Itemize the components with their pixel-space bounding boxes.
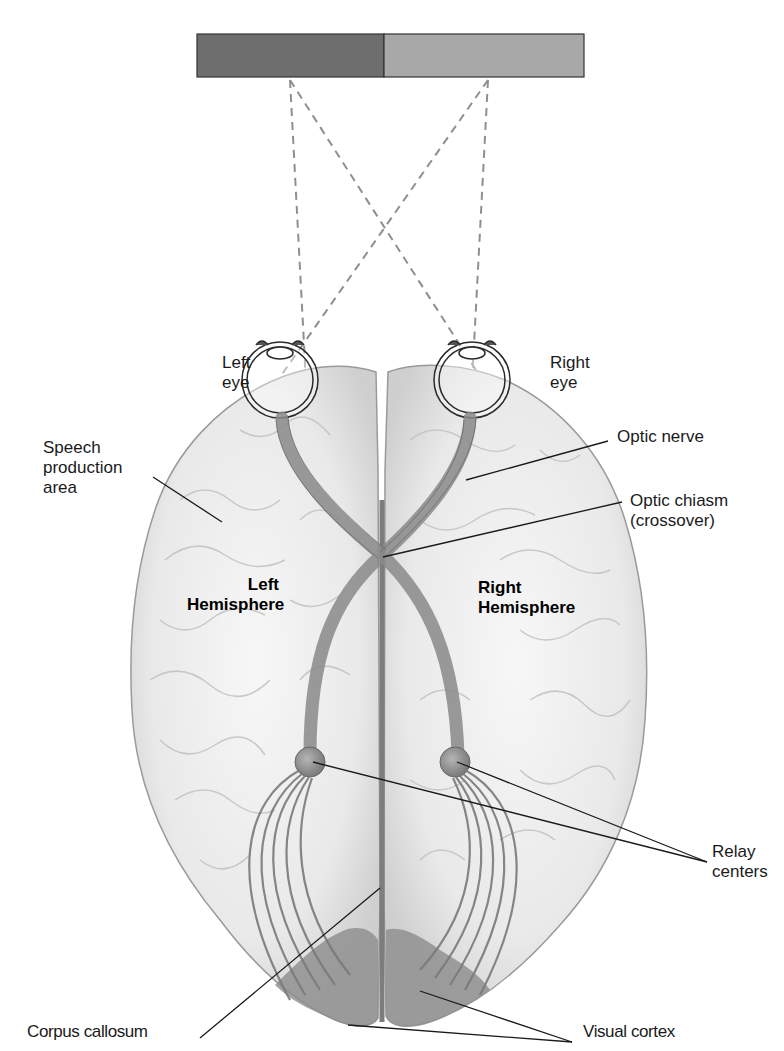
label-visual-cortex: Visual cortex (583, 1022, 675, 1042)
relay-center-right (440, 747, 470, 777)
relay-center-left (295, 747, 325, 777)
label-right-hemisphere: Right Hemisphere (478, 578, 575, 618)
label-speech-production-area: Speech production area (43, 438, 122, 498)
label-corpus-callosum: Corpus callosum (27, 1022, 148, 1042)
brain (131, 365, 647, 1026)
label-relay-centers: Relay centers (712, 842, 768, 882)
right-eye (434, 341, 510, 418)
label-left-eye: Left eye (222, 353, 250, 393)
visual-field-left-half (197, 34, 384, 77)
label-optic-nerve: Optic nerve (617, 427, 704, 447)
label-right-eye: Right eye (550, 353, 590, 393)
label-optic-chiasm: Optic chiasm (crossover) (630, 491, 728, 531)
right-hemisphere-shape (384, 365, 647, 1026)
left-hemisphere-shape (131, 366, 380, 1026)
left-eye (242, 341, 318, 418)
label-left-hemisphere: Left Hemisphere (187, 575, 279, 615)
leader-visual-cortex-left (348, 1025, 572, 1042)
visual-field-bar (197, 34, 584, 77)
visual-field-right-half (384, 34, 584, 77)
